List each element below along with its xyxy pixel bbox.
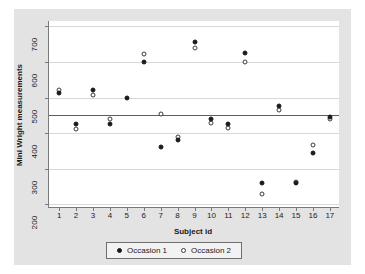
legend-label-occasion-1: Occasion 1	[127, 246, 167, 255]
data-point	[192, 45, 197, 50]
data-point	[74, 126, 79, 131]
gridline	[49, 98, 339, 99]
y-tick	[45, 204, 49, 205]
x-tick-label: 16	[308, 211, 317, 220]
gridline	[49, 133, 339, 134]
data-point	[74, 122, 79, 127]
x-tick-label: 11	[224, 211, 232, 220]
data-point	[57, 91, 62, 96]
y-tick	[45, 26, 49, 27]
x-tick-label: 13	[258, 211, 267, 220]
x-axis-line: 1234567891011121314151617	[49, 207, 339, 208]
open-circle-icon	[181, 248, 186, 253]
y-tick-label: 600	[31, 73, 40, 87]
x-tick-label: 15	[292, 211, 301, 220]
y-tick-label: 300	[31, 180, 40, 194]
data-point	[90, 88, 95, 93]
gridline	[49, 169, 339, 170]
data-point	[141, 52, 146, 57]
legend-item-occasion-1: Occasion 1	[117, 246, 167, 255]
x-tick-label: 2	[74, 211, 78, 220]
data-point	[158, 145, 163, 150]
y-tick	[45, 98, 49, 99]
legend-label-occasion-2: Occasion 2	[191, 246, 231, 255]
x-tick-label: 17	[325, 211, 334, 220]
x-tick-label: 7	[158, 211, 162, 220]
data-point	[260, 192, 265, 197]
data-point	[192, 40, 197, 45]
data-point	[277, 104, 282, 109]
y-tick-label: 400	[31, 145, 40, 159]
data-point	[226, 122, 231, 127]
data-point	[294, 180, 299, 185]
reference-line	[49, 115, 339, 116]
x-tick-label: 9	[192, 211, 196, 220]
legend: Occasion 1 Occasion 2	[106, 242, 242, 259]
gridline	[49, 204, 339, 205]
y-tick-label: 700	[31, 38, 40, 52]
figure-background: 200300400500600700 123456789101112131415…	[14, 9, 351, 265]
data-point	[260, 181, 265, 186]
gridline	[49, 62, 339, 63]
x-tick-label: 14	[275, 211, 284, 220]
x-tick-label: 1	[57, 211, 61, 220]
y-tick	[45, 169, 49, 170]
x-tick-label: 8	[175, 211, 179, 220]
data-point	[141, 59, 146, 64]
x-tick-label: 12	[241, 211, 250, 220]
data-point	[209, 116, 214, 121]
data-point	[327, 115, 332, 120]
data-point	[243, 59, 248, 64]
data-point	[209, 121, 214, 126]
y-tick-label: 500	[31, 109, 40, 123]
x-tick-label: 6	[142, 211, 146, 220]
data-point	[158, 111, 163, 116]
y-tick	[45, 133, 49, 134]
gridline	[49, 26, 339, 27]
data-point	[90, 92, 95, 97]
data-point	[107, 122, 112, 127]
y-axis-title-text: Mini Wright measurements	[15, 63, 24, 165]
plot-panel: 200300400500600700 123456789101112131415…	[48, 21, 339, 208]
y-tick	[45, 62, 49, 63]
y-tick-label: 200	[31, 216, 40, 230]
data-point	[243, 51, 248, 56]
x-axis-title: Subject id	[174, 227, 212, 236]
data-point	[310, 142, 315, 147]
data-point	[175, 138, 180, 143]
legend-item-occasion-2: Occasion 2	[181, 246, 231, 255]
filled-circle-icon	[117, 248, 122, 253]
x-tick-label: 5	[125, 211, 129, 220]
x-tick-label: 10	[207, 211, 216, 220]
x-tick-label: 4	[108, 211, 112, 220]
data-point	[107, 116, 112, 121]
data-point	[124, 95, 129, 100]
x-tick-label: 3	[91, 211, 95, 220]
data-point	[310, 150, 315, 155]
